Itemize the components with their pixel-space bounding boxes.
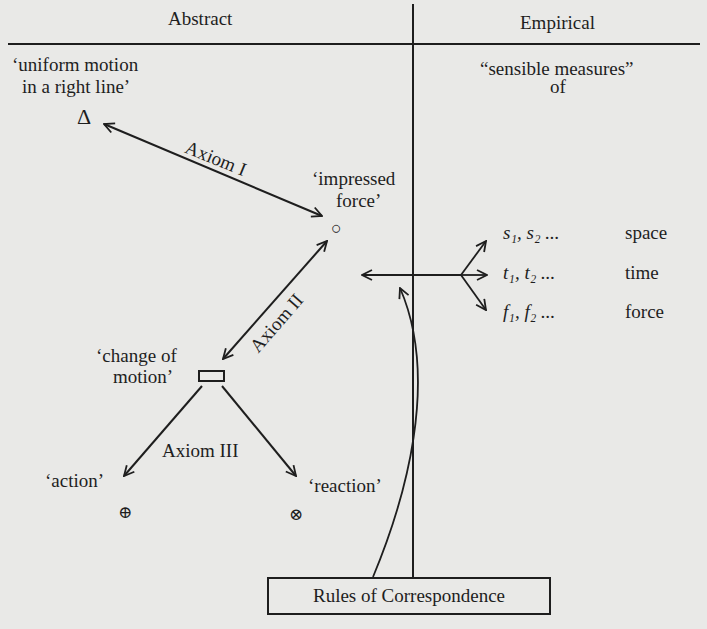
change-of-motion-label-line1: ‘change of <box>96 345 177 366</box>
triangle-icon: Δ <box>77 107 91 127</box>
impressed-force-label-line2: force’ <box>336 190 381 211</box>
impressed-force-label-line1: ‘impressed <box>312 168 395 189</box>
uniform-motion-label-line2: in a right line’ <box>22 76 130 97</box>
measure-terms-space: s₁, s₂ ... <box>503 222 560 243</box>
measure-terms-force: f₁, f₂ ... <box>503 301 555 322</box>
axiom1-arrow <box>104 124 322 216</box>
fan-arrow-space <box>461 241 486 275</box>
change-of-motion-label-line2: motion’ <box>113 366 173 387</box>
circle-times-icon: ⊗ <box>289 505 303 525</box>
axiom3-label: Axiom III <box>162 440 239 461</box>
rules-of-correspondence-box: Rules of Correspondence <box>267 577 551 615</box>
measure-label-time: time <box>625 262 659 283</box>
reaction-label: ‘reaction’ <box>308 475 382 496</box>
abstract-header: Abstract <box>168 8 232 29</box>
axiom3-reaction-arrow <box>222 386 296 476</box>
diagram-abstract-empirical: Abstract Empirical ‘uniform motion in a … <box>0 0 707 629</box>
measure-terms-time: t₁, t₂ ... <box>503 262 555 283</box>
circle-icon: ○ <box>331 218 342 238</box>
circle-plus-icon: ⊕ <box>118 503 132 523</box>
fan-arrow-force <box>461 275 486 310</box>
measure-label-space: space <box>625 222 667 243</box>
sensible-measures-of: of <box>550 76 566 97</box>
action-label: ‘action’ <box>45 470 104 491</box>
measure-label-force: force <box>625 301 664 322</box>
rectangle-icon <box>198 370 225 382</box>
empirical-header: Empirical <box>520 12 595 33</box>
axiom3-action-arrow <box>124 386 202 476</box>
uniform-motion-label-line1: ‘uniform motion <box>12 54 138 75</box>
rules-curve-arrow <box>373 288 418 577</box>
rules-of-correspondence-label: Rules of Correspondence <box>313 585 505 607</box>
